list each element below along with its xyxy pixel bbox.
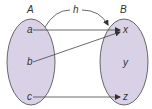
function-diagram: A B h a b c x y z: [0, 0, 152, 109]
element-z: z: [122, 91, 128, 102]
element-x: x: [122, 24, 129, 35]
element-b: b: [27, 56, 33, 67]
function-h-arc: [45, 10, 70, 27]
element-a: a: [27, 24, 33, 35]
set-a-label: A: [26, 4, 34, 15]
function-label: h: [73, 4, 79, 15]
set-b-label: B: [120, 4, 127, 15]
element-c: c: [27, 91, 32, 102]
function-h-arc-right: [82, 10, 108, 25]
element-y: y: [122, 57, 129, 68]
